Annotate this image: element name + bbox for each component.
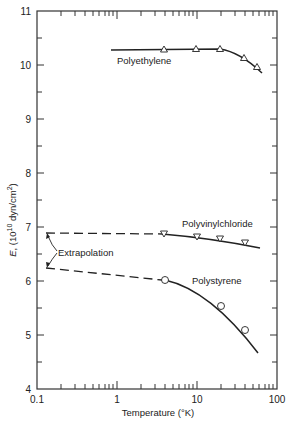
x-tick-label: 10 xyxy=(191,394,203,405)
x-tick-label: 0.1 xyxy=(30,394,44,405)
label-polyvinylchloride: Polyvinylchloride xyxy=(182,218,253,229)
chart: 4 5 6 7 8 9 10 11 0.1 1 10 100 Temperatu… xyxy=(0,0,292,422)
x-tick-label: 1 xyxy=(114,394,120,405)
y-tick-label: 5 xyxy=(25,330,31,341)
x-axis-title: Temperature (°K) xyxy=(122,407,194,418)
series-polystyrene: Polystyrene xyxy=(46,268,258,353)
y-axis-title: E, (1010 dyn/cm2) xyxy=(6,183,18,257)
y-ticks xyxy=(37,38,277,362)
y-tick-labels: 4 5 6 7 8 9 10 11 xyxy=(20,6,32,395)
extrapolation-annotation: Extrapolation xyxy=(46,233,113,268)
label-polyethylene: Polyethylene xyxy=(117,55,171,66)
y-tick-label: 6 xyxy=(25,276,31,287)
x-tick-label: 100 xyxy=(269,394,286,405)
y-tick-label: 11 xyxy=(21,6,32,17)
label-polystyrene: Polystyrene xyxy=(192,275,242,286)
y-tick-label: 8 xyxy=(25,168,31,179)
x-tick-labels: 0.1 1 10 100 xyxy=(30,394,286,405)
y-tick-label: 10 xyxy=(20,60,32,71)
y-tick-label: 7 xyxy=(25,222,31,233)
series-polyvinylchloride: Polyvinylchloride xyxy=(46,218,260,248)
label-extrapolation: Extrapolation xyxy=(58,247,113,258)
series-polyethylene: Polyethylene xyxy=(111,46,262,74)
y-tick-label: 9 xyxy=(25,114,31,125)
